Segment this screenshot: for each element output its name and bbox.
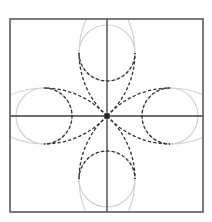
left-petal-upper-curve [44, 88, 107, 116]
top-petal-left-curve [79, 53, 107, 116]
top-petal-right-curve [107, 53, 135, 116]
left-petal-lower-curve [44, 116, 107, 144]
right-petal-upper-curve [107, 88, 170, 116]
quatrefoil-diagram [0, 0, 212, 222]
bottom-petal-left-curve [79, 116, 107, 179]
bottom-petal-right-curve [107, 116, 135, 179]
center-point [105, 114, 110, 119]
diagram-canvas: Four-petal quatrefoil construction: squa… [0, 0, 212, 222]
right-petal-lower-curve [107, 116, 170, 144]
